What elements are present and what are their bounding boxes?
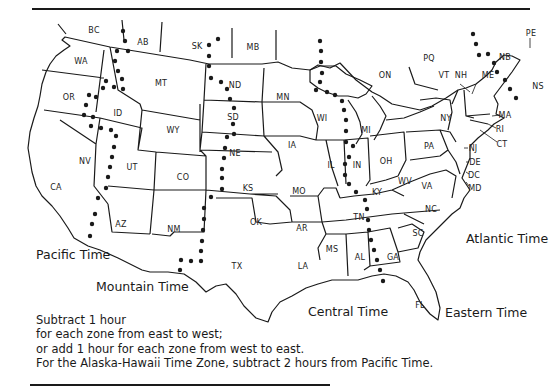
state-label-tx: TX (232, 262, 243, 271)
state-label-ia: IA (288, 141, 296, 150)
state-label-pq: PQ (423, 54, 435, 63)
state-label-az: AZ (115, 220, 126, 229)
zone-label-pacific-time: Pacific Time (36, 247, 110, 262)
state-label-nc: NC (425, 205, 437, 214)
state-label-bc: BC (88, 26, 99, 35)
state-label-nm: NM (167, 225, 180, 234)
note-line-4: For the Alaska-Hawaii Time Zone, subtrac… (36, 356, 433, 370)
canada-lines (58, 20, 438, 90)
state-label-co: CO (177, 173, 189, 182)
time-zone-dots (82, 29, 518, 283)
state-label-md: MD (468, 184, 481, 193)
state-label-ut: UT (126, 163, 137, 172)
state-label-on: ON (379, 71, 392, 80)
state-label-wy: WY (166, 126, 179, 135)
state-label-oh: OH (380, 157, 393, 166)
state-label-ca: CA (50, 183, 61, 192)
state-label-dc: DC (468, 171, 480, 180)
state-label-ns: NS (532, 82, 543, 91)
state-label-mt: MT (155, 79, 167, 88)
state-label-al: AL (355, 253, 365, 262)
state-label-ar: AR (296, 224, 307, 233)
state-label-pe: PE (526, 29, 536, 38)
state-label-ct: CT (497, 140, 508, 149)
state-label-ky: KY (372, 188, 382, 197)
state-label-wa: WA (74, 57, 87, 66)
state-label-ab: AB (137, 38, 148, 47)
state-label-in: IN (353, 161, 362, 170)
state-label-me: ME (482, 71, 494, 80)
state-label-vt: VT (439, 71, 450, 80)
note-line-1: Subtract 1 hour (36, 313, 433, 327)
state-label-il: IL (327, 161, 334, 170)
state-label-sd: SD (227, 113, 239, 122)
zone-label-mountain-time: Mountain Time (96, 279, 189, 294)
state-label-id: ID (114, 109, 123, 118)
state-label-ms: MS (326, 245, 338, 254)
zone-label-atlantic-time: Atlantic Time (466, 231, 548, 246)
state-label-ks: KS (243, 184, 254, 193)
instruction-note: Subtract 1 hour for each zone from east … (36, 313, 433, 370)
state-label-nh: NH (455, 71, 467, 80)
state-label-ga: GA (387, 253, 399, 262)
state-label-de: DE (469, 158, 481, 167)
state-label-wv: WV (398, 177, 412, 186)
state-label-la: LA (298, 262, 309, 271)
state-label-pa: PA (424, 142, 434, 151)
state-label-nv: NV (79, 157, 91, 166)
state-label-ny: NY (440, 114, 451, 123)
state-label-mn: MN (276, 93, 289, 102)
state-label-nd: ND (229, 81, 242, 90)
state-label-or: OR (63, 93, 75, 102)
state-label-sk: SK (192, 42, 203, 51)
state-borders (42, 47, 490, 276)
state-label-nb: NB (499, 53, 511, 62)
state-label-va: VA (422, 182, 433, 191)
state-label-ri: RI (496, 125, 504, 134)
state-label-mo: MO (292, 187, 306, 196)
great-lakes (310, 66, 434, 144)
state-label-wi: WI (317, 114, 328, 123)
state-label-ok: OK (250, 218, 262, 227)
state-label-tn: TN (353, 213, 364, 222)
zone-label-eastern-time: Eastern Time (445, 305, 527, 320)
state-label-fl: FL (415, 301, 424, 310)
state-label-sc: SC (412, 229, 423, 238)
state-label-ma: MA (499, 111, 512, 120)
state-label-nj: NJ (469, 144, 478, 153)
state-label-mi: MI (361, 126, 371, 135)
note-line-3: or add 1 hour for each zone from west to… (36, 342, 433, 356)
state-label-mb: MB (247, 43, 260, 52)
state-label-ne: NE (229, 149, 240, 158)
note-line-2: for each zone from east to west; (36, 327, 433, 341)
